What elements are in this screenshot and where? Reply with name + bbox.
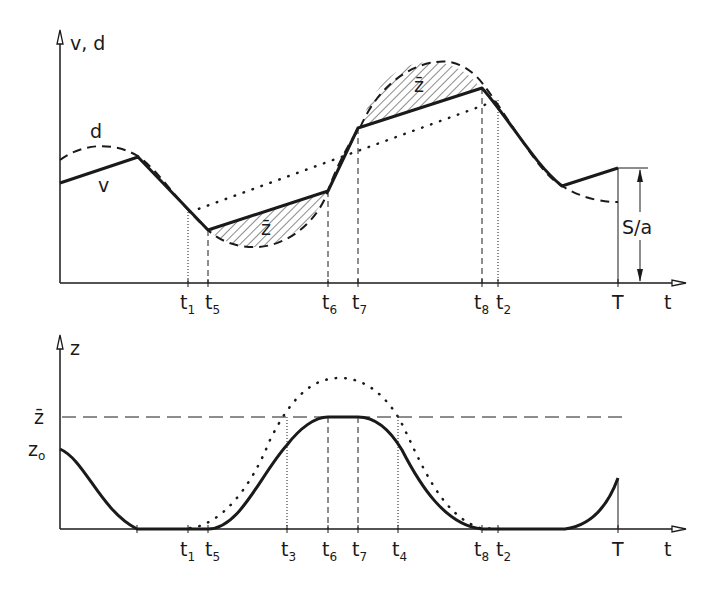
z0-tick-label: zo: [28, 438, 45, 463]
bottom-y-arrow-icon: [57, 335, 63, 349]
bottom-panel: z z̄ zo t1 t5 t3 t6 t7 t4 t8 t2 T t: [28, 335, 686, 564]
top-x-axis-label: t: [664, 291, 671, 313]
dimension-arrow-down-icon: [637, 269, 643, 282]
curve-z-dotted: [190, 378, 500, 529]
curve-d-label: d: [90, 120, 102, 142]
b-tick-label-t3: t3: [281, 538, 296, 564]
tick-label-T: T: [611, 291, 624, 313]
tick-label-t6: t6: [322, 291, 337, 317]
tick-label-t2: t2: [496, 291, 511, 317]
b-tick-label-t2: t2: [496, 538, 511, 564]
dimension-label: S/a: [622, 216, 652, 238]
bottom-x-arrow-icon: [672, 526, 686, 532]
top-panel: S/a v, d d v z̄ z̄ t1 t5 t6 t7 t8 t2 T t: [57, 30, 686, 317]
tick-label-t8: t8: [474, 291, 489, 317]
b-tick-label-t4: t4: [392, 538, 407, 564]
b-tick-label-t7: t7: [352, 538, 367, 564]
top-x-arrow-icon: [672, 280, 686, 286]
curve-v: [60, 88, 618, 230]
area-label-upper: z̄: [414, 74, 424, 96]
bottom-x-axis-label: t: [664, 538, 671, 560]
curve-z: [60, 417, 618, 529]
top-y-arrow-icon: [57, 30, 63, 44]
bottom-y-axis-label: z: [70, 337, 80, 359]
curve-v-label: v: [98, 174, 109, 196]
zbar-tick-label: z̄: [34, 406, 44, 428]
top-y-axis-label: v, d: [70, 32, 105, 54]
tick-label-t5: t5: [205, 291, 220, 317]
area-label-lower: z̄: [261, 217, 271, 239]
curve-d: [60, 62, 618, 248]
dimension-arrow-up-icon: [637, 169, 643, 182]
diagram: S/a v, d d v z̄ z̄ t1 t5 t6 t7 t8 t2 T t: [0, 0, 711, 589]
b-tick-label-t8: t8: [474, 538, 489, 564]
tick-label-t7: t7: [352, 291, 367, 317]
b-tick-label-T: T: [611, 538, 624, 560]
b-tick-label-t1: t1: [180, 538, 195, 564]
b-tick-label-t6: t6: [322, 538, 337, 564]
b-tick-label-t5: t5: [205, 538, 220, 564]
tick-label-t1: t1: [180, 291, 195, 317]
